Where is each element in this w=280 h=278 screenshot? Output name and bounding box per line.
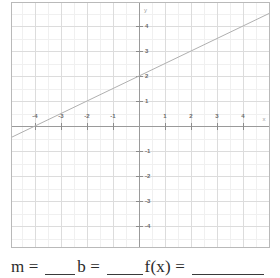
coordinate-grid: -4-3-2-112344321-1-2-3-4 x y	[11, 2, 270, 248]
slope-answer-blank[interactable]	[45, 261, 75, 275]
plotted-line	[12, 3, 270, 248]
answer-prompt-row: m = b = f(x) =	[11, 252, 273, 276]
function-prompt-label: f(x) =	[145, 258, 190, 276]
intercept-answer-blank[interactable]	[107, 261, 143, 275]
worksheet: -4-3-2-112344321-1-2-3-4 x y m = b = f(x…	[0, 0, 280, 278]
slope-prompt-label: m =	[11, 258, 43, 276]
intercept-prompt-label: b =	[77, 258, 104, 276]
function-answer-blank[interactable]	[192, 261, 264, 275]
